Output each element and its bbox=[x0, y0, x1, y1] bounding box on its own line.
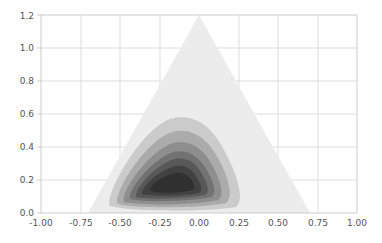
x-tick-label: 1.00 bbox=[347, 218, 367, 228]
x-tick-label: 0.00 bbox=[189, 218, 209, 228]
x-tick-label: -1.00 bbox=[29, 218, 53, 228]
x-tick-label: -0.25 bbox=[148, 218, 171, 228]
x-tick-label: 0.25 bbox=[229, 218, 249, 228]
y-tick-label: 0.4 bbox=[20, 142, 35, 152]
y-axis-labels: 0.0 0.2 0.4 0.6 0.8 1.0 1.2 bbox=[20, 11, 35, 218]
x-tick-label: 0.50 bbox=[268, 218, 288, 228]
contour-chart: 0.0 0.2 0.4 0.6 0.8 1.0 1.2 -1.00 -0.75 … bbox=[0, 0, 382, 243]
y-tick-label: 1.2 bbox=[20, 11, 34, 21]
y-tick-label: 0.8 bbox=[20, 76, 35, 86]
x-tick-label: -0.75 bbox=[69, 218, 92, 228]
x-tick-label: 0.75 bbox=[308, 218, 328, 228]
y-tick-marks bbox=[37, 15, 41, 213]
y-tick-label: 0.0 bbox=[20, 208, 35, 218]
y-tick-label: 1.0 bbox=[20, 43, 35, 53]
y-tick-label: 0.2 bbox=[20, 175, 34, 185]
x-axis-labels: -1.00 -0.75 -0.50 -0.25 0.00 0.25 0.50 0… bbox=[29, 218, 367, 228]
y-tick-label: 0.6 bbox=[20, 109, 35, 119]
x-tick-label: -0.50 bbox=[108, 218, 132, 228]
